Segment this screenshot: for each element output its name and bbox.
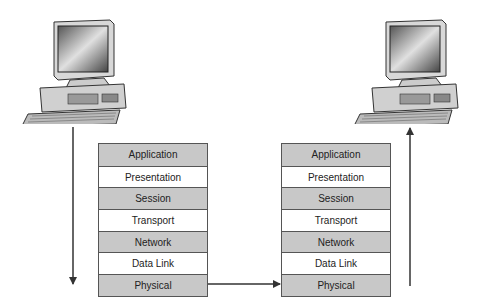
- arrows-overlay: [0, 0, 478, 308]
